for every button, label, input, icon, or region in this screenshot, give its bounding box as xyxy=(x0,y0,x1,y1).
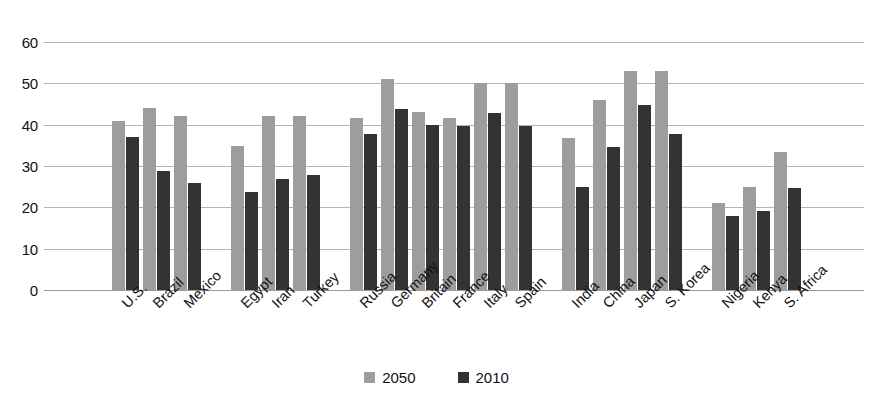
bar xyxy=(774,152,787,290)
bar xyxy=(474,83,487,290)
y-axis-tick-label: 60 xyxy=(2,35,38,50)
bar xyxy=(381,79,394,290)
bar xyxy=(726,216,739,290)
bar-chart: 0102030405060 U.S.BrazilMexicoEgyptIranT… xyxy=(0,0,873,396)
bar xyxy=(519,126,532,291)
legend-swatch-icon xyxy=(364,372,375,383)
y-axis-tick-label: 0 xyxy=(2,283,38,298)
bar xyxy=(457,126,470,290)
x-axis-category-labels: U.S.BrazilMexicoEgyptIranTurkeyRussiaGer… xyxy=(44,292,864,360)
bar xyxy=(112,121,125,290)
y-axis-tick-label: 40 xyxy=(2,118,38,133)
bar xyxy=(157,171,170,290)
legend-label: 2050 xyxy=(382,370,415,385)
legend-item-2010[interactable]: 2010 xyxy=(458,370,509,385)
bar xyxy=(788,188,801,290)
bar xyxy=(231,146,244,290)
bar xyxy=(576,187,589,290)
bar xyxy=(143,108,156,290)
bar xyxy=(262,116,275,290)
legend-item-2050[interactable]: 2050 xyxy=(364,370,415,385)
bar xyxy=(307,175,320,290)
bar xyxy=(593,100,606,290)
bar xyxy=(126,137,139,290)
bar xyxy=(712,203,725,290)
y-axis-tick-label: 20 xyxy=(2,200,38,215)
bar xyxy=(188,183,201,290)
bar xyxy=(655,71,668,290)
bar xyxy=(276,179,289,290)
chart-legend: 20502010 xyxy=(0,366,873,388)
bar xyxy=(350,118,363,290)
y-axis-tick-label: 10 xyxy=(2,242,38,257)
bar xyxy=(607,147,620,290)
bar xyxy=(669,134,682,290)
bar xyxy=(624,71,637,290)
gridline-60 xyxy=(44,42,864,43)
bar xyxy=(443,118,456,290)
bar xyxy=(174,116,187,290)
legend-label: 2010 xyxy=(476,370,509,385)
y-axis: 0102030405060 xyxy=(0,42,38,290)
gridline-50 xyxy=(44,83,864,84)
bar xyxy=(505,83,518,290)
y-axis-tick-label: 30 xyxy=(2,159,38,174)
bar xyxy=(245,192,258,290)
bar xyxy=(364,134,377,290)
y-axis-tick-label: 50 xyxy=(2,76,38,91)
legend-swatch-icon xyxy=(458,372,469,383)
plot-area xyxy=(44,42,864,290)
bar xyxy=(293,116,306,290)
bar xyxy=(562,138,575,290)
bar xyxy=(488,113,501,290)
bar xyxy=(395,109,408,290)
bar xyxy=(638,105,651,290)
